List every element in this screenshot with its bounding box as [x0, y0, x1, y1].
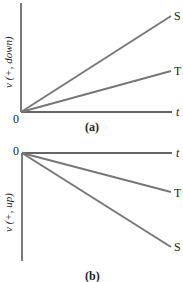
velocity-time-diagrams: S T t 0 v (+, down) (a) T S t 0 v (+, up… — [0, 0, 183, 282]
y-axis-label-a-text: v (+, down) — [2, 36, 15, 88]
caption-b: (b) — [85, 269, 100, 282]
y-axis-label-a: v (+, down) — [2, 36, 15, 88]
panel-b: T S t 0 v (+, up) (b) — [2, 144, 182, 282]
line-t-b — [22, 153, 171, 192]
x-axis-label-b: t — [176, 146, 180, 160]
line-t-a — [21, 71, 171, 112]
panel-a: S T t 0 v (+, down) (a) — [2, 3, 182, 134]
label-t-b: T — [174, 186, 182, 200]
origin-label-a: 0 — [13, 112, 19, 126]
label-s-a: S — [174, 9, 181, 23]
y-axis-label-b-text: v (+, up) — [2, 193, 15, 232]
x-axis-label-a: t — [176, 105, 180, 119]
line-s-a — [21, 16, 171, 112]
label-s-b: S — [174, 240, 181, 254]
label-t-a: T — [174, 64, 182, 78]
caption-a: (a) — [85, 120, 99, 134]
line-s-b — [22, 153, 171, 247]
origin-label-b: 0 — [13, 144, 19, 158]
y-axis-label-b: v (+, up) — [2, 193, 15, 232]
